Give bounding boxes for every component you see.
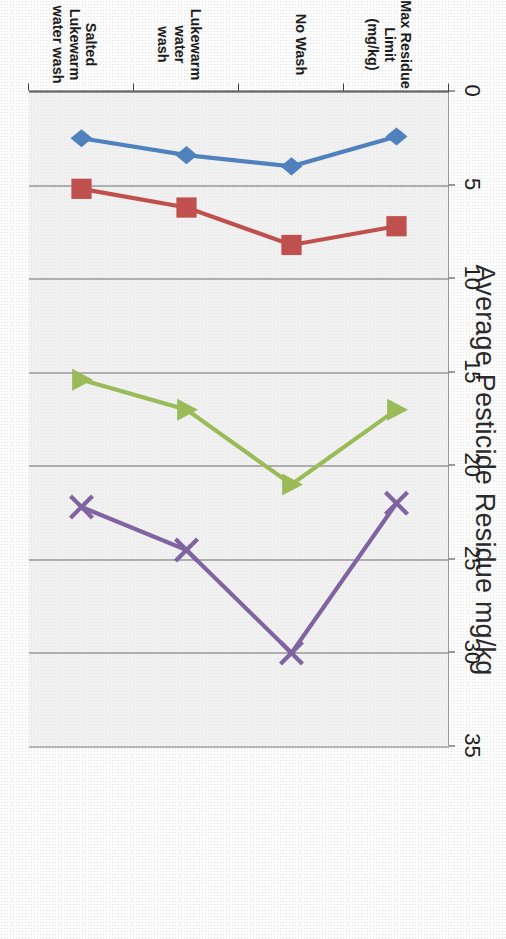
series-line-3 bbox=[82, 503, 397, 653]
data-point-2-3 bbox=[72, 368, 93, 390]
category-label-0: Max Residue Limit (mg/kg) bbox=[364, 0, 414, 90]
data-point-3-3 bbox=[71, 495, 93, 517]
value-tick-label-20: 20 bbox=[459, 452, 485, 476]
data-point-0-1 bbox=[281, 157, 303, 175]
series-chloropyrifos bbox=[71, 127, 408, 175]
value-tick-20 bbox=[449, 464, 455, 465]
value-tick-label-25: 25 bbox=[459, 546, 485, 570]
series-diphenylamine bbox=[71, 492, 408, 664]
category-label-1: No Wash bbox=[293, 0, 310, 90]
category-tick-end bbox=[28, 83, 29, 90]
value-tick-label-0: 0 bbox=[459, 84, 485, 96]
data-point-1-3 bbox=[71, 178, 91, 198]
series-line-2 bbox=[82, 379, 397, 484]
value-tick-label-15: 15 bbox=[459, 358, 485, 382]
data-point-1-0 bbox=[386, 216, 406, 236]
value-tick-30 bbox=[449, 651, 455, 652]
data-point-2-0 bbox=[387, 398, 408, 420]
value-tick-label-35: 35 bbox=[459, 733, 485, 757]
series-imazilil bbox=[71, 178, 406, 254]
value-tick-10 bbox=[449, 277, 455, 278]
plot-area bbox=[29, 90, 449, 745]
value-tick-15 bbox=[449, 371, 455, 372]
value-tick-5 bbox=[449, 184, 455, 185]
pesticide-residue-line-chart: Average Pesticide Residue mg/kg 05101520… bbox=[0, 0, 506, 939]
data-point-3-1 bbox=[281, 641, 303, 663]
series-line-0 bbox=[82, 136, 397, 166]
value-tick-label-10: 10 bbox=[459, 265, 485, 289]
data-point-1-1 bbox=[281, 234, 301, 254]
value-tick-35 bbox=[449, 745, 455, 746]
data-point-3-2 bbox=[176, 539, 198, 561]
category-tick-0 bbox=[448, 83, 449, 90]
scanned-page-background: Average Pesticide Residue mg/kg 05101520… bbox=[0, 0, 506, 939]
category-tick-2 bbox=[238, 83, 239, 90]
value-tick-label-30: 30 bbox=[459, 639, 485, 663]
category-label-3: Salted Lukewarm water wash bbox=[49, 0, 99, 90]
category-label-2: Lukewarm water wash bbox=[154, 0, 204, 90]
category-tick-3 bbox=[133, 83, 134, 90]
data-point-3-0 bbox=[386, 492, 408, 514]
data-point-0-0 bbox=[386, 127, 408, 145]
series-line-1 bbox=[82, 188, 397, 244]
data-point-0-3 bbox=[71, 129, 93, 147]
value-tick-0 bbox=[449, 90, 455, 91]
value-tick-25 bbox=[449, 558, 455, 559]
series-lines-group bbox=[29, 91, 449, 746]
data-point-1-2 bbox=[176, 197, 196, 217]
category-tick-1 bbox=[343, 83, 344, 90]
series-thiabendazole bbox=[72, 368, 408, 495]
data-point-0-2 bbox=[176, 146, 198, 164]
value-tick-label-5: 5 bbox=[459, 177, 485, 189]
